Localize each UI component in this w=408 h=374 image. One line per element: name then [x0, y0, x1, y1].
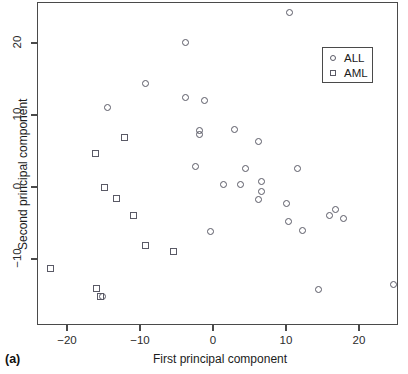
- data-point-all: [104, 104, 111, 111]
- x-tick-mark: [66, 325, 67, 331]
- scatter-plot-figure: −20−1001020−1001020 Second principal com…: [0, 0, 408, 374]
- x-tick-mark: [212, 325, 213, 331]
- data-point-all: [231, 126, 238, 133]
- x-tick-label: 10: [274, 334, 298, 346]
- data-point-all: [285, 218, 292, 225]
- x-tick-mark: [139, 325, 140, 331]
- data-point-all: [332, 206, 339, 213]
- data-point-all: [286, 9, 293, 16]
- data-point-all: [142, 80, 149, 87]
- y-tick-mark: [31, 258, 37, 259]
- data-point-aml: [101, 184, 108, 191]
- y-tick-mark: [31, 186, 37, 187]
- legend-label-aml: AML: [344, 66, 368, 80]
- y-axis-label: Second principal component: [16, 99, 30, 250]
- data-point-all: [299, 227, 306, 234]
- figure-caption: (a): [5, 352, 20, 366]
- legend-box: ALL AML: [322, 47, 373, 83]
- data-point-aml: [142, 242, 149, 249]
- x-tick-label: −20: [55, 334, 79, 346]
- data-point-all: [237, 181, 244, 188]
- legend-row-aml: AML: [323, 66, 374, 80]
- x-tick-mark: [358, 325, 359, 331]
- data-point-all: [326, 212, 333, 219]
- x-axis-label: First principal component: [153, 352, 287, 366]
- data-point-aml: [130, 212, 137, 219]
- data-point-all: [192, 163, 199, 170]
- y-tick-mark: [31, 42, 37, 43]
- data-point-aml: [97, 293, 104, 300]
- y-tick-mark: [31, 114, 37, 115]
- data-point-aml: [92, 150, 99, 157]
- x-tick-mark: [285, 325, 286, 331]
- x-tick-label: 20: [347, 334, 371, 346]
- legend-row-all: ALL: [323, 51, 374, 65]
- data-point-all: [294, 165, 301, 172]
- x-tick-label: 0: [201, 334, 225, 346]
- data-point-aml: [170, 248, 177, 255]
- legend-label-all: ALL: [344, 51, 364, 65]
- y-tick-label: 20: [11, 30, 23, 54]
- data-point-aml: [113, 195, 120, 202]
- circle-marker-icon: [330, 55, 336, 61]
- data-point-all: [255, 138, 262, 145]
- data-point-aml: [93, 285, 100, 292]
- data-point-aml: [121, 134, 128, 141]
- data-point-aml: [47, 265, 54, 272]
- x-tick-label: −10: [128, 334, 152, 346]
- data-point-all: [182, 94, 189, 101]
- data-point-all: [283, 200, 290, 207]
- square-marker-icon: [330, 70, 336, 76]
